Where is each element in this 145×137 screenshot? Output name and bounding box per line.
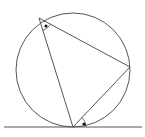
circle — [16, 13, 130, 127]
geometry-diagram — [0, 0, 145, 137]
angle-dot-c — [82, 122, 85, 125]
inscribed-triangle — [39, 18, 130, 127]
angle-dot-a — [44, 24, 47, 27]
